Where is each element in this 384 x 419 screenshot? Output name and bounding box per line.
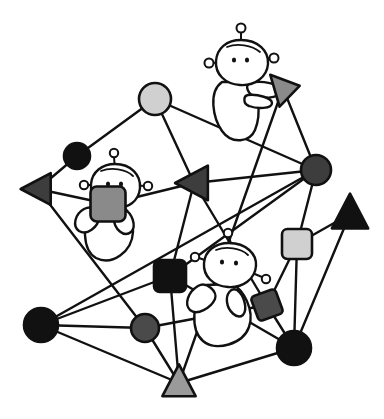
gray-triangle-held-top[interactable] <box>270 75 299 107</box>
black-square-center[interactable] <box>154 260 186 292</box>
black-circle-bottom-right[interactable] <box>277 331 311 365</box>
light-gray-square-right[interactable] <box>282 229 312 259</box>
gray-square-held-left-figure[interactable] <box>91 187 126 222</box>
dark-gray-circle-hub-right[interactable] <box>301 155 331 185</box>
light-gray-circle-top[interactable] <box>139 83 171 115</box>
black-triangle-right-edge[interactable] <box>332 194 368 229</box>
network-graph <box>0 0 384 419</box>
black-circle-upper-left[interactable] <box>64 143 90 169</box>
black-circle-bottom-left[interactable] <box>24 308 58 342</box>
dark-gray-diamond-right[interactable] <box>250 288 283 321</box>
dark-gray-triangle-left[interactable] <box>21 173 51 205</box>
diagram-canvas <box>0 0 384 419</box>
mid-gray-circle-bottom[interactable] <box>131 314 159 342</box>
